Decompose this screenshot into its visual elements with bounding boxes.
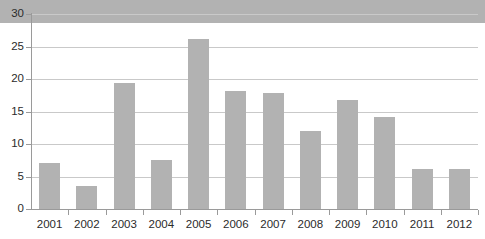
bar-2005 xyxy=(188,39,209,209)
bar-2008 xyxy=(300,131,321,209)
x-tick-mark-9 xyxy=(404,210,405,215)
x-tick-label-2006: 2006 xyxy=(217,219,254,231)
x-tick-mark-10 xyxy=(441,210,442,215)
bar-2007 xyxy=(263,93,284,209)
y-tick-label-25: 25 xyxy=(0,41,24,53)
x-tick-label-2012: 2012 xyxy=(441,219,478,231)
x-tick-mark-8 xyxy=(366,210,367,215)
bar-2001 xyxy=(39,163,60,209)
bar-chart: 30 25 20 15 10 5 0 2001 2002 2003 2004 2… xyxy=(0,0,485,23)
x-tick-mark-2 xyxy=(143,210,144,215)
x-tick-label-2010: 2010 xyxy=(366,219,403,231)
bars-layer xyxy=(31,14,478,209)
x-tick-mark-3 xyxy=(180,210,181,215)
x-tick-label-2005: 2005 xyxy=(180,219,217,231)
x-tick-label-2008: 2008 xyxy=(292,219,329,231)
bar-2011 xyxy=(412,169,433,209)
x-tick-label-2004: 2004 xyxy=(143,219,180,231)
x-tick-label-2003: 2003 xyxy=(106,219,143,231)
x-tick-mark-6 xyxy=(292,210,293,215)
bar-2003 xyxy=(114,83,135,209)
x-tick-mark-0 xyxy=(68,210,69,215)
y-tick-label-0: 0 xyxy=(0,203,24,215)
x-tick-label-2009: 2009 xyxy=(329,219,366,231)
x-tick-mark-11 xyxy=(478,210,479,215)
x-tick-mark-5 xyxy=(255,210,256,215)
y-tick-label-15: 15 xyxy=(0,106,24,118)
y-tick-mark-0 xyxy=(26,209,31,210)
bar-2010 xyxy=(374,117,395,209)
y-tick-label-5: 5 xyxy=(0,171,24,183)
y-tick-label-10: 10 xyxy=(0,138,24,150)
y-tick-label-20: 20 xyxy=(0,73,24,85)
bar-2006 xyxy=(225,91,246,209)
bar-2009 xyxy=(337,100,358,209)
x-tick-label-2011: 2011 xyxy=(404,219,441,231)
y-tick-label-30: 30 xyxy=(0,8,24,20)
x-tick-label-2002: 2002 xyxy=(68,219,105,231)
x-tick-label-2001: 2001 xyxy=(31,219,68,231)
x-tick-label-2007: 2007 xyxy=(255,219,292,231)
bar-2004 xyxy=(151,160,172,209)
bar-2002 xyxy=(76,186,97,209)
x-tick-mark-1 xyxy=(106,210,107,215)
x-tick-mark-4 xyxy=(217,210,218,215)
x-tick-mark-7 xyxy=(329,210,330,215)
bar-2012 xyxy=(449,169,470,209)
